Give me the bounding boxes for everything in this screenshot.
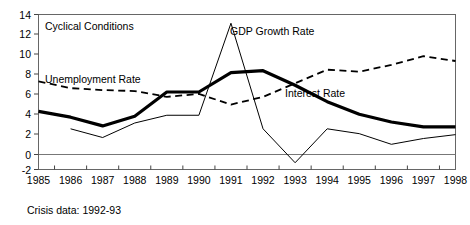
x-tick-label: 1988 <box>123 174 147 186</box>
y-tick-label: 12 <box>19 28 31 40</box>
y-axis-ticks <box>34 15 39 170</box>
x-axis-tick-labels: 1985198619871988198919901991199219931994… <box>27 174 468 186</box>
y-tick-label: 2 <box>25 128 31 140</box>
x-tick-label: 1996 <box>380 174 404 186</box>
y-tick-label: 8 <box>25 68 31 80</box>
y-tick-label: 10 <box>19 48 31 60</box>
x-tick-label: 1994 <box>316 174 340 186</box>
cyclical-conditions-line-chart: 14 12 10 8 6 4 2 0 -2 198519861987198819… <box>0 0 470 225</box>
chart-caption: Crisis data: 1992-93 <box>27 204 121 216</box>
annotation-interest-rate: Interest Rate <box>285 87 345 99</box>
y-tick-label: 14 <box>19 9 31 21</box>
x-tick-label: 1989 <box>155 174 179 186</box>
x-tick-label: 1991 <box>219 174 243 186</box>
x-tick-label: 1985 <box>27 174 51 186</box>
annotation-unemployment-rate: Unemployment Rate <box>45 73 141 85</box>
x-tick-label: 1997 <box>412 174 436 186</box>
plot-area-border <box>39 15 456 170</box>
chart-figure: 14 12 10 8 6 4 2 0 -2 198519861987198819… <box>0 0 470 225</box>
x-tick-label: 1987 <box>91 174 115 186</box>
x-tick-label: 1998 <box>444 174 468 186</box>
x-tick-label: 1992 <box>251 174 275 186</box>
y-tick-label: 4 <box>25 108 31 120</box>
y-tick-label: 6 <box>25 88 31 100</box>
x-tick-label: 1986 <box>59 174 83 186</box>
annotation-cyclical-conditions: Cyclical Conditions <box>45 20 134 32</box>
y-tick-label: 0 <box>25 149 31 161</box>
x-tick-label: 1990 <box>187 174 211 186</box>
x-tick-label: 1995 <box>348 174 372 186</box>
x-tick-label: 1993 <box>283 174 307 186</box>
y-axis-tick-labels: 14 12 10 8 6 4 2 0 -2 <box>19 9 31 176</box>
annotation-gdp-growth-rate: GDP Growth Rate <box>230 25 315 37</box>
